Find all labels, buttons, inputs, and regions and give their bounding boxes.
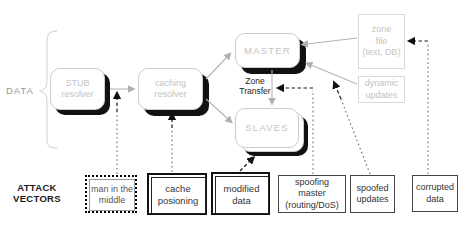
attack-vectors-heading: ATTACK VECTORS <box>10 182 64 205</box>
node-zone-file: zone file (text, DB) <box>358 14 405 69</box>
master-label: MASTER <box>244 45 291 57</box>
attack-arrow-modified-data <box>240 161 250 171</box>
node-stub-resolver: STUB resolver <box>50 68 105 110</box>
caching-resolver-label: caching resolver <box>154 78 186 101</box>
spoofed-updates-label: spoofed updates <box>356 183 388 206</box>
zone-transfer-label: Zone Transfer <box>238 76 272 96</box>
slaves-label: SLAVES <box>245 122 288 134</box>
attack-cache-poisoning: cache posioning <box>147 173 207 215</box>
man-in-the-middle-label: man in the middle <box>89 179 135 211</box>
dns-attack-vectors-diagram: DATA STUB resolver caching resolver MAST… <box>0 0 462 229</box>
cache-poisoning-label: cache posioning <box>151 177 206 214</box>
attack-corrupted-data: corrupted data <box>412 175 458 212</box>
attack-arrow-spoofed-updates <box>336 87 341 99</box>
slaves-box: SLAVES <box>235 108 299 148</box>
attack-spoofing-master: spoofing master (routing/DoS) <box>278 175 346 213</box>
attack-modified-data: modified data <box>211 172 270 215</box>
node-master: MASTER <box>235 33 300 68</box>
attack-line-spoofed-dotted <box>341 99 370 174</box>
spoofing-master-label: spoofing master (routing/DoS) <box>285 177 339 211</box>
attack-spoofed-updates: spoofed updates <box>350 175 395 213</box>
modified-data-label: modified data <box>215 176 269 214</box>
stub-resolver-label: STUB resolver <box>61 78 93 101</box>
connector-dynupdates-to-master <box>311 65 357 84</box>
connector-zonefile-to-master <box>307 38 357 44</box>
attack-man-in-the-middle: man in the middle <box>85 175 137 213</box>
node-slaves: SLAVES <box>235 108 299 148</box>
node-dynamic-updates: dynamic updates <box>358 76 405 103</box>
connector-caching-to-slaves <box>206 99 228 119</box>
zone-file-label: zone file (text, DB) <box>362 24 400 59</box>
data-label: DATA <box>6 85 40 96</box>
dynamic-updates-label: dynamic updates <box>365 78 399 101</box>
connector-caching-to-master <box>206 57 227 79</box>
corrupted-data-label: corrupted data <box>416 182 454 205</box>
node-caching-resolver: caching resolver <box>138 68 203 110</box>
